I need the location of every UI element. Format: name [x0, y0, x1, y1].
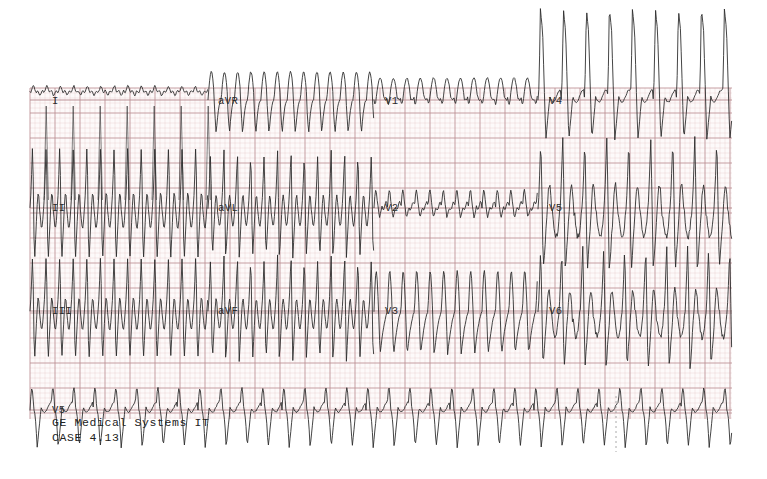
lead-label-avl: aVL — [218, 202, 238, 214]
lead-label-v4: V4 — [549, 95, 562, 107]
ecg-printout-sheet: IaVRV1V4IIaVLV2V5IIIaVFV3V6V5 GE Medical… — [0, 0, 767, 479]
lead-label-avf: aVF — [218, 305, 238, 317]
lead-label-v1: V1 — [385, 95, 398, 107]
lead-label-v5: V5 — [52, 404, 65, 416]
lead-label-avr: aVR — [218, 95, 238, 107]
lead-label-v6: V6 — [549, 305, 562, 317]
lead-label-ii: II — [52, 202, 65, 214]
ecg-canvas: IaVRV1V4IIaVLV2V5IIIaVFV3V6V5 GE Medical… — [0, 0, 767, 479]
lead-label-i: I — [52, 95, 59, 107]
case-label: CASE 4.13 — [52, 431, 120, 444]
lead-label-v5: V5 — [549, 202, 562, 214]
lead-label-v3: V3 — [385, 305, 398, 317]
manufacturer-label: GE Medical Systems IT — [52, 416, 210, 429]
lead-label-v2: V2 — [385, 202, 398, 214]
lead-label-iii: III — [52, 305, 72, 317]
